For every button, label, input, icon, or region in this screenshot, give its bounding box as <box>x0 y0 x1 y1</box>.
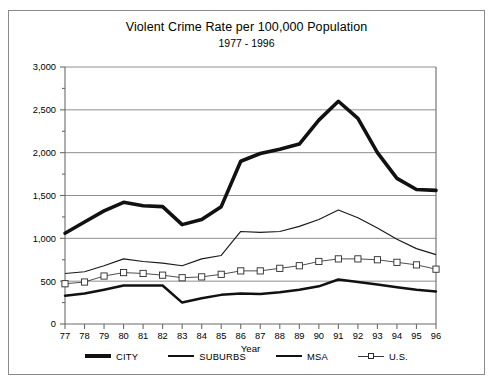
plot-area: 05001,0001,5002,0002,5003,000 7778798081… <box>9 11 486 376</box>
series-suburbs <box>65 279 436 302</box>
svg-text:79: 79 <box>99 331 109 341</box>
legend-item-us[interactable]: U.S. <box>358 350 408 362</box>
data-series-layer <box>62 101 439 302</box>
svg-text:87: 87 <box>255 331 265 341</box>
legend-item-suburbs[interactable]: SUBURBS <box>168 350 246 362</box>
series-city <box>65 101 436 233</box>
svg-text:84: 84 <box>197 331 207 341</box>
svg-text:89: 89 <box>294 331 304 341</box>
svg-text:80: 80 <box>118 331 128 341</box>
series-msa <box>65 210 436 273</box>
svg-text:96: 96 <box>431 331 441 341</box>
svg-text:88: 88 <box>275 331 285 341</box>
chart-legend: CITYSUBURBSMSAU.S. <box>9 350 484 362</box>
gridlines <box>65 67 436 281</box>
svg-text:3,000: 3,000 <box>33 62 56 72</box>
svg-text:86: 86 <box>236 331 246 341</box>
legend-item-city[interactable]: CITY <box>85 350 138 362</box>
legend-label: MSA <box>307 351 328 362</box>
y-axis-tick-labels: 05001,0001,5002,0002,5003,000 <box>33 62 56 329</box>
svg-text:92: 92 <box>353 331 363 341</box>
axis-ticks <box>60 67 436 329</box>
legend-label: SUBURBS <box>199 351 246 362</box>
svg-text:1,500: 1,500 <box>33 191 56 201</box>
legend-label: U.S. <box>389 351 408 362</box>
legend-swatch-icon <box>276 350 302 362</box>
svg-text:81: 81 <box>138 331 148 341</box>
svg-text:0: 0 <box>51 319 56 329</box>
svg-text:95: 95 <box>411 331 421 341</box>
svg-text:90: 90 <box>314 331 324 341</box>
legend-swatch-icon <box>358 350 384 362</box>
svg-text:1,000: 1,000 <box>33 234 56 244</box>
svg-text:83: 83 <box>177 331 187 341</box>
svg-text:77: 77 <box>60 331 70 341</box>
legend-swatch-icon <box>85 350 111 362</box>
svg-text:93: 93 <box>372 331 382 341</box>
svg-text:78: 78 <box>79 331 89 341</box>
legend-item-msa[interactable]: MSA <box>276 350 328 362</box>
chart-figure: Violent Crime Rate per 100,000 Populatio… <box>8 10 485 375</box>
legend-label: CITY <box>116 351 138 362</box>
svg-text:94: 94 <box>392 331 402 341</box>
legend-swatch-icon <box>168 350 194 362</box>
svg-text:82: 82 <box>157 331 167 341</box>
svg-text:91: 91 <box>333 331 343 341</box>
x-axis-tick-labels: 7778798081828384858687888990919293949596 <box>60 331 441 341</box>
svg-text:500: 500 <box>40 277 56 287</box>
svg-text:2,500: 2,500 <box>33 105 56 115</box>
svg-text:85: 85 <box>216 331 226 341</box>
svg-text:2,000: 2,000 <box>33 148 56 158</box>
